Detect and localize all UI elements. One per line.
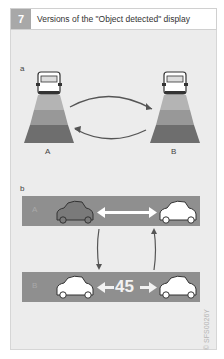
part-b-diagram	[0, 0, 224, 359]
image-code: © SFS0026Y	[203, 309, 210, 350]
double-arrow-icon	[97, 207, 157, 218]
arrow-up-icon	[154, 230, 156, 270]
white-car-icon	[57, 276, 93, 298]
distance-value: 45	[115, 277, 134, 297]
left-arrow-icon	[97, 282, 114, 293]
arrow-down-icon	[98, 229, 100, 268]
white-car-icon	[160, 276, 196, 298]
right-arrow-icon	[140, 282, 157, 293]
white-car-icon	[160, 201, 196, 223]
dark-car-icon	[57, 201, 93, 223]
